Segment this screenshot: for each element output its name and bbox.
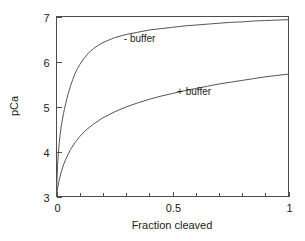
x-tick-label: 0.5 [166,202,181,214]
y-tick-label: 3 [43,192,49,204]
series-label-plus-buffer: + buffer [177,86,212,97]
chart-canvas: 34567 00.51 - buffer + buffer Fraction c… [0,0,305,241]
y-axis-title: pCa [8,95,20,116]
x-axis-ticks [58,192,290,197]
y-tick-label: 5 [43,102,49,114]
curve-buffer [57,20,289,197]
series-annotations: - buffer + buffer [124,33,212,97]
y-tick-label: 6 [43,57,49,69]
plot-frame [57,17,289,197]
curve-buffer [57,74,289,196]
series-label-minus-buffer: - buffer [124,33,156,44]
x-tick-label: 1 [286,202,292,214]
y-axis-tick-labels: 34567 [43,12,49,204]
x-axis-tick-labels: 00.51 [54,202,292,214]
data-curves [57,20,289,197]
y-tick-label: 4 [43,147,49,159]
x-axis-title: Fraction cleaved [132,219,213,231]
y-tick-label: 7 [43,12,49,24]
x-tick-label: 0 [54,202,60,214]
chart-figure: 34567 00.51 - buffer + buffer Fraction c… [0,0,305,241]
